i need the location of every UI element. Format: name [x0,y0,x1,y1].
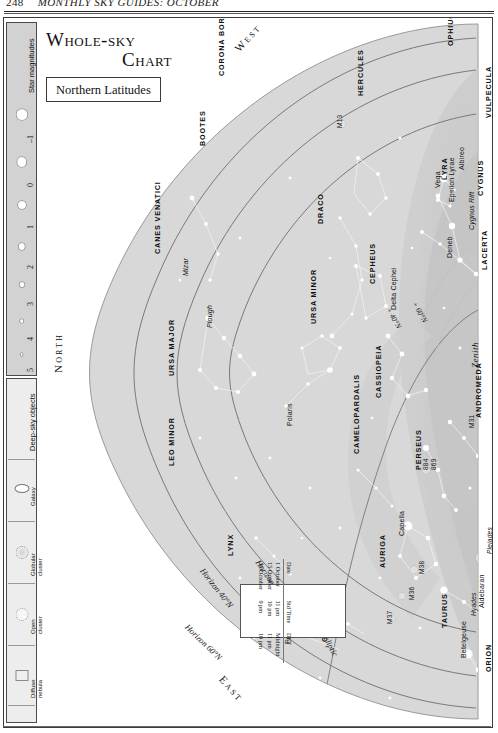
constellation-cygnus: CYGNUS [476,160,485,196]
constellation-draco: DRACO [316,193,325,224]
star-label-deneb: Deneb [446,236,453,258]
dso-label-pleiades: Pleiades [486,527,493,554]
time-table-header-dst: DST [284,630,293,663]
chart-subtitle: Northern Latitudes [56,83,151,97]
constellation-leo-minor: LEO MINOR [168,417,176,466]
globular-cluster-icon [15,546,28,559]
time-table-rotator: Date Std Time DST 1 October 11 pm Midnig… [189,559,293,611]
page-folio: 248 [6,0,24,8]
header-rule-thick [4,11,494,12]
constellation-ursa-minor: URSA MINOR [310,269,318,324]
time-table: Date Std Time DST 1 October 11 pm Midnig… [240,584,346,638]
dso-label-m37: M37 [386,611,393,624]
constellation-auriga: AURIGA [378,534,387,568]
time-table-date-1: 15 October [265,559,274,597]
star-label-epsilon-lyrae: Epsilon Lyrae [448,157,455,202]
compass-north: North [52,333,64,373]
constellation-bootes: BOOTES [198,110,207,146]
magnitude-dot-3 [19,282,24,287]
table-row: 1 October 11 pm Midnight [274,559,284,663]
header-rule-thin [4,13,494,14]
legend-magnitudes-title: Star magnitudes [27,38,36,93]
magnitude-label-0: 0 [26,183,35,187]
magnitude-dot--1 [16,109,27,120]
time-table-header-std: Std Time [284,597,293,630]
time-table-std-0: 11 pm [274,597,284,630]
page-running-head: 248MONTHLY SKY GUIDES: OCTOBER [0,0,498,14]
star-label-vega: Vega [434,171,441,188]
constellation-vulpecula: VULPECULA [484,66,493,118]
magnitude-label-5: 5 [26,368,35,372]
constellation-andromeda: ANDROMEDA [474,362,483,418]
constellation-taurus: TAURUS [440,593,449,628]
magnitude-label-1: 1 [26,225,35,229]
time-table-header-row: Date Std Time DST [284,559,293,663]
constellation-cassiopeia: CASSIOPEIA [374,345,383,398]
star-label-delta-cephei: Delta Cephei [390,267,398,310]
magnitude-label-2: 2 [26,265,35,269]
constellation-orion: ORION [484,644,493,672]
legend-item-galaxy: Galaxy [8,459,35,522]
dso-label-m36: M36 [408,587,415,600]
constellation-hercules: HERCULES [356,49,365,96]
chart-subtitle-box: Northern Latitudes [46,77,161,102]
plate-bottom-rule [3,726,491,727]
legend-deepsky-title: Deep-sky objects [28,393,37,451]
star-label-polaris: Polaris [286,403,293,426]
chart-title-line2: Chart [46,50,226,70]
constellation-ophiuchus: OPHIUCHUS [446,17,455,46]
constellation-canes-venatici: CANES VENATICI [154,181,162,254]
dso-label-m31: M31 [468,415,475,428]
star-label-albireo: Albireo [458,147,465,170]
legend-deep-sky-objects: Deep-sky objects Galaxy Globular cluster… [6,378,37,723]
time-table-dst-1: 11 pm [265,630,274,663]
constellation-lynx: LYNX [226,534,235,556]
legend-galaxy-label: Galaxy [30,487,37,506]
constellation-ursa-major: URSA MAJOR [168,319,176,376]
chart-title-block: Whole-sky Chart Northern Latitudes [46,30,226,102]
dso-label-hyades: Hyades [470,592,477,616]
legend-item-open: Open cluster [8,583,35,646]
magnitude-dot-5 [20,353,23,356]
star-label-plough: Plough [206,305,213,328]
time-table-std-2: 9 pm [257,597,266,630]
constellation-cepheus: CEPHEUS [368,243,377,284]
magnitude-dot-0 [17,157,27,167]
time-table-std-1: 10 pm [265,597,274,630]
dso-label-m38: M38 [418,561,425,574]
time-table-date-2: 30 October [257,559,266,597]
legend-item-diffuse: Diffuse nebula [8,645,35,706]
star-label-aldebaran: Aldebaran [478,574,485,608]
time-table-date-0: 1 October [274,559,284,597]
open-cluster-icon [15,608,28,621]
magnitude-label--1: –1 [26,135,35,143]
magnitude-dot-2 [18,243,25,250]
dso-label-m13: M13 [336,115,343,128]
magnitude-dot-1 [18,201,26,209]
time-table-header-date: Date [284,559,293,597]
running-head-text: 248MONTHLY SKY GUIDES: OCTOBER [6,0,219,8]
dso-label-869: 869 [430,458,437,470]
chart-title-line1: Whole-sky [46,30,226,50]
legend-item-globular: Globular cluster [8,521,35,584]
star-label-cygnus-rift: Cygnus Rift [468,192,476,230]
legend-rail: Star magnitudes –1 0 1 2 3 4 5 Deep-sky … [4,18,37,725]
time-table-grid: Date Std Time DST 1 October 11 pm Midnig… [257,559,293,663]
magnitude-label-4: 4 [26,337,35,341]
running-title: MONTHLY SKY GUIDES: OCTOBER [38,0,219,8]
table-row: 15 October 10 pm 11 pm [265,559,274,663]
legend-star-magnitudes: Star magnitudes –1 0 1 2 3 4 5 [6,22,37,376]
legend-item-planetary: Planetary nebula [8,705,35,728]
galaxy-icon [14,484,29,493]
star-chart-plate: Star magnitudes –1 0 1 2 3 4 5 Deep-sky … [3,17,493,728]
magnitude-dot-4 [20,319,24,323]
magnitude-label-3: 3 [26,302,35,306]
constellation-camelopardalis: CAMELOPARDALIS [352,374,361,454]
star-label-mizar: Mizar [182,258,189,276]
time-table-dst-2: 10 pm [257,630,266,663]
time-table-dst-0: Midnight [274,630,284,663]
diffuse-nebula-icon [15,670,28,681]
dso-label-884: 884 [422,458,429,470]
constellation-lacerta: LACERTA [480,230,489,270]
star-label-betelgeuse: Betelgeuse [460,621,467,658]
